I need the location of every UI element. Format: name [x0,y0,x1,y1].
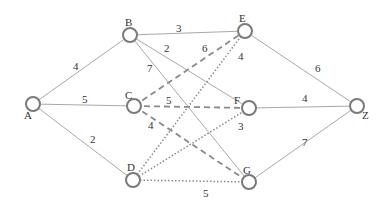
node-c: C [125,89,141,113]
edge-weight-c-f: 5 [166,94,172,106]
edge-weight-a-d: 2 [90,133,96,145]
node-label: D [127,161,135,173]
node-f: F [234,94,256,115]
edge-weight-d-e: 4 [238,50,244,62]
node-circle-icon [238,24,252,38]
edge-weight-e-z: 6 [315,62,321,74]
edge-f-z [249,106,357,108]
edge-d-g [133,180,249,182]
edge-weight-c-g: 4 [148,119,154,131]
edge-e-z [245,31,357,106]
edge-b-e [130,31,245,35]
edge-weight-b-f: 2 [164,42,170,54]
edge-weight-b-g: 7 [147,62,153,74]
edge-weight-c-e: 6 [202,42,208,54]
node-label: C [125,89,132,101]
node-label: Z [362,109,369,121]
node-label: E [239,12,246,24]
node-label: B [125,16,132,28]
edge-weight-d-g: 5 [203,187,209,199]
node-label: F [234,94,240,106]
edge-c-g [134,106,249,182]
weighted-graph-diagram: 452327654435647 ABCDEFGZ [0,0,386,208]
node-g: G [242,164,256,189]
edge-weight-a-b: 4 [73,60,79,72]
edge-weight-a-c: 5 [82,93,88,105]
node-z: Z [350,99,369,121]
node-circle-icon [126,173,140,187]
edge-weight-d-f: 3 [238,120,244,132]
edge-weight-f-z: 4 [302,92,308,104]
edge-weight-g-z: 7 [302,136,308,148]
node-b: B [123,16,137,42]
node-circle-icon [242,101,256,115]
edge-c-f [134,106,249,108]
node-layer: ABCDEFGZ [24,12,369,189]
node-label: A [24,109,32,121]
node-label: G [243,164,251,176]
edge-a-d [33,104,133,180]
edge-weight-b-e: 3 [176,22,182,34]
node-e: E [238,12,252,38]
edge-layer [33,31,357,182]
node-a: A [24,97,40,121]
node-circle-icon [242,175,256,189]
node-circle-icon [123,28,137,42]
node-d: D [126,161,140,187]
node-circle-icon [127,99,141,113]
